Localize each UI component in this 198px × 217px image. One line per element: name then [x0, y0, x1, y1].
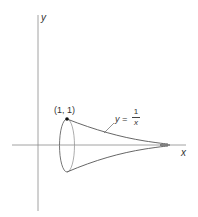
horn-tip-lower [160, 145, 170, 146]
point-marker [65, 117, 69, 121]
curve-label-denominator: x [132, 118, 140, 127]
curve-label-leader [104, 123, 114, 133]
curve-label-numerator: 1 [132, 107, 140, 116]
y-axis-label: y [41, 13, 46, 23]
point-label: (1, 1) [54, 106, 75, 115]
ellipse-back-half [67, 119, 75, 172]
lower-curve [67, 146, 168, 172]
curve-label-lhs: y = [115, 115, 127, 124]
ellipse-front-half [60, 119, 68, 172]
x-axis-label: x [181, 148, 186, 158]
gabriels-horn-diagram [0, 0, 198, 217]
